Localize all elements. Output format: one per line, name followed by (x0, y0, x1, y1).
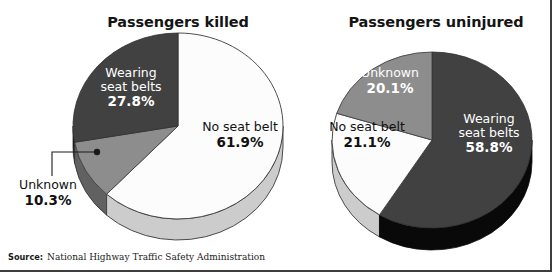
right-wearing-slice-label: Wearing seat belts 58.8% (447, 112, 531, 155)
right-noseatbelt-slice-label: No seat belt 21.1% (318, 120, 416, 149)
right-wearing-label-line2: seat belts (447, 126, 531, 140)
left-noseatbelt-slice-label: No seat belt 61.9% (186, 120, 294, 149)
source-label: Source: (8, 252, 43, 262)
left-wearing-slice-label: Wearing seat belts 27.8% (88, 66, 174, 109)
left-unknown-percent: 10.3% (2, 193, 94, 208)
left-wearing-percent: 27.8% (88, 94, 174, 109)
right-wearing-percent: 58.8% (447, 140, 531, 155)
right-noseatbelt-percent: 21.1% (318, 135, 416, 150)
pie-chart-figure: Passengers killed Passengers uninjured (0, 0, 560, 280)
left-wearing-label-line2: seat belts (88, 80, 174, 94)
right-unknown-slice-label: Unknown 20.1% (345, 66, 435, 95)
frame-right-rule (550, 0, 552, 272)
right-unknown-percent: 20.1% (345, 81, 435, 96)
left-noseatbelt-label: No seat belt (186, 120, 294, 134)
right-unknown-label: Unknown (345, 66, 435, 80)
left-noseatbelt-percent: 61.9% (186, 135, 294, 150)
frame-bottom-rule (0, 270, 552, 272)
source-note: Source:National Highway Traffic Safety A… (8, 252, 265, 262)
source-text: National Highway Traffic Safety Administ… (47, 252, 265, 262)
left-unknown-slice-label: Unknown 10.3% (2, 178, 94, 207)
right-noseatbelt-label: No seat belt (318, 120, 416, 134)
right-wearing-label-line1: Wearing (447, 112, 531, 126)
left-wearing-label-line1: Wearing (88, 66, 174, 80)
left-unknown-label: Unknown (2, 178, 94, 192)
